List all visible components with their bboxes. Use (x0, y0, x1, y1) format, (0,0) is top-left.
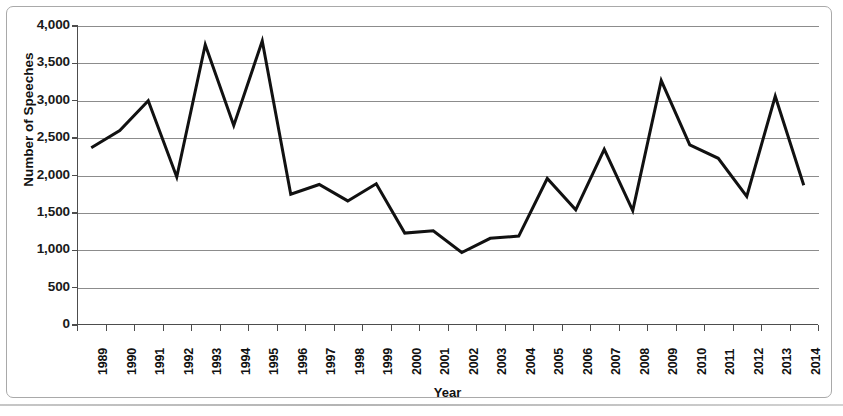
x-axis-tick-label: 1997 (324, 348, 338, 375)
x-axis-tick-label: 2009 (666, 348, 680, 375)
x-axis-tick-label: 2001 (438, 348, 452, 375)
x-axis-tick (590, 325, 591, 331)
series-line-number-of-speeches (77, 26, 818, 325)
x-axis-tick-label: 1994 (239, 348, 253, 375)
x-axis-tick (790, 325, 791, 331)
x-axis-tick (647, 325, 648, 331)
x-axis-tick-label: 2002 (467, 348, 481, 375)
x-axis-tick-label: 2011 (723, 349, 737, 375)
x-axis-tick (419, 325, 420, 331)
x-axis-tick (277, 325, 278, 331)
y-axis-tick-label: 3,500 (2, 54, 70, 69)
x-axis-tick-label: 1991 (153, 348, 167, 375)
x-axis-tick-label: 1996 (296, 348, 310, 375)
x-axis-tick-label: 2006 (581, 348, 595, 375)
x-axis-tick-label: 2008 (638, 348, 652, 375)
x-axis-tick (676, 325, 677, 331)
x-axis-tick (533, 325, 534, 331)
y-axis-tick-label: 500 (2, 279, 70, 294)
y-axis-tick-label: 1,500 (2, 204, 70, 219)
x-axis-tick-label: 1989 (96, 348, 110, 375)
x-axis-tick (704, 325, 705, 331)
x-axis-tick-label: 2010 (695, 348, 709, 375)
x-axis-tick (191, 325, 192, 331)
x-axis-title: Year (77, 385, 818, 400)
x-axis-tick-label: 1998 (353, 348, 367, 375)
x-axis-tick-label: 1990 (125, 348, 139, 375)
x-axis-ticks (77, 325, 818, 333)
y-axis-title: Number of Speeches (21, 10, 36, 230)
y-axis-tick-label: 2,000 (2, 167, 70, 182)
x-axis-tick-label: 2005 (552, 348, 566, 375)
x-axis-tick-label: 2013 (780, 348, 794, 375)
x-axis-tick (362, 325, 363, 331)
x-axis-tick (818, 325, 819, 331)
x-axis-tick-label: 2004 (524, 348, 538, 375)
x-axis-tick (448, 325, 449, 331)
x-axis-tick-label: 2012 (752, 348, 766, 375)
x-axis-tick (77, 325, 78, 331)
x-axis-tick (220, 325, 221, 331)
x-axis-tick-label: 1995 (267, 348, 281, 375)
x-axis-tick (391, 325, 392, 331)
x-axis-tick (505, 325, 506, 331)
x-axis-tick-label: 1992 (182, 348, 196, 375)
x-axis-tick-label: 1999 (381, 348, 395, 375)
x-axis-tick (733, 325, 734, 331)
x-axis-tick-label: 2007 (609, 348, 623, 375)
x-axis-tick-label: 2014 (809, 348, 823, 375)
y-axis-tick-label: 2,500 (2, 129, 70, 144)
x-axis-tick (134, 325, 135, 331)
x-axis-tick-label: 2003 (495, 348, 509, 375)
x-axis-tick (248, 325, 249, 331)
x-axis-tick (562, 325, 563, 331)
x-axis-tick (476, 325, 477, 331)
y-axis-tick-label: 1,000 (2, 241, 70, 256)
x-axis-tick (334, 325, 335, 331)
y-axis-tick-label: 4,000 (2, 17, 70, 32)
x-axis-tick-labels: 1989199019911992199319941995199619971998… (77, 333, 818, 383)
y-axis-tick-label: 0 (2, 316, 70, 331)
x-axis-tick (106, 325, 107, 331)
y-axis-tick-label: 3,000 (2, 92, 70, 107)
x-axis-tick (619, 325, 620, 331)
x-axis-tick (163, 325, 164, 331)
x-axis-tick-label: 1993 (210, 348, 224, 375)
x-axis-tick (305, 325, 306, 331)
x-axis-tick-label: 2000 (410, 348, 424, 375)
line-chart: 05001,0001,5002,0002,5003,0003,5004,000 … (0, 0, 843, 416)
x-axis-tick (761, 325, 762, 331)
